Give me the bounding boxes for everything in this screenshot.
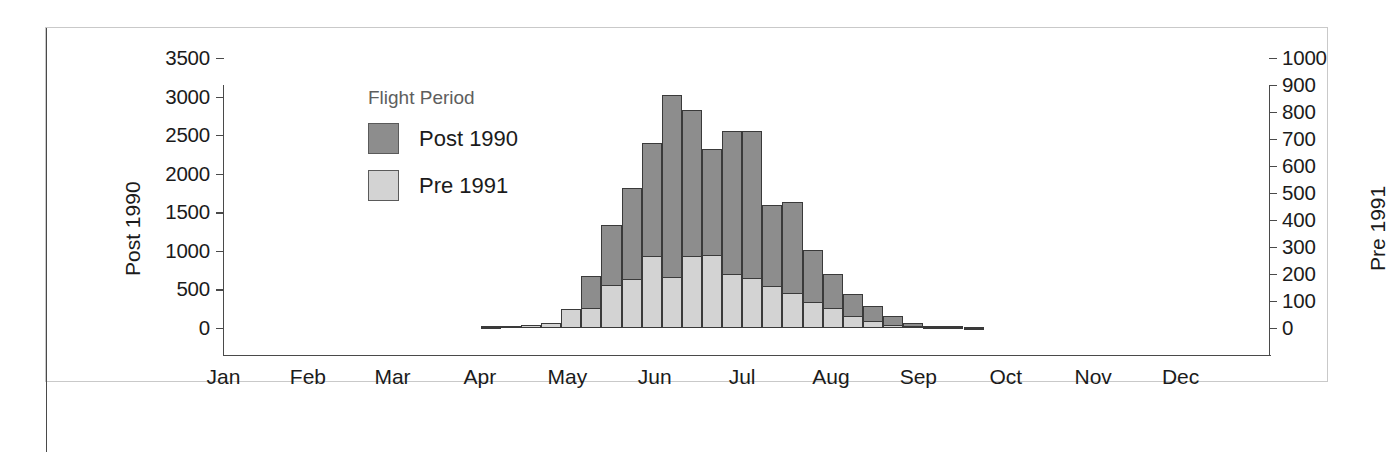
left-axis-tick-label: 3000 xyxy=(165,87,210,108)
left-axis-tick-label: 1500 xyxy=(165,202,210,223)
x-axis-tick xyxy=(46,68,47,76)
x-axis-tick xyxy=(46,316,47,324)
x-axis-tick xyxy=(46,60,47,68)
bar-pre-1991 xyxy=(943,327,963,329)
bar-pre-1991 xyxy=(782,293,802,328)
x-axis-tick xyxy=(46,236,47,244)
x-axis-tick xyxy=(46,132,47,140)
left-axis-line xyxy=(223,85,224,356)
left-axis-tick xyxy=(216,212,224,213)
x-axis-tick xyxy=(46,244,47,252)
x-axis-tick xyxy=(46,156,47,164)
x-axis-tick xyxy=(46,36,47,44)
left-axis-tick xyxy=(216,97,224,98)
right-axis-tick xyxy=(1269,328,1277,329)
x-axis-tick xyxy=(46,428,47,436)
legend-item-pre-1991: Pre 1991 xyxy=(368,170,518,201)
left-axis-title: Post 1990 xyxy=(121,181,145,276)
legend-label-pre-1991: Pre 1991 xyxy=(419,175,508,197)
left-axis-tick-label: 2500 xyxy=(165,125,210,146)
left-axis-tick xyxy=(216,58,224,59)
x-axis-tick xyxy=(46,444,47,452)
x-axis-tick xyxy=(46,188,47,196)
x-axis-tick xyxy=(46,124,47,132)
x-axis-tick xyxy=(46,356,47,364)
x-axis-tick xyxy=(46,276,47,284)
bar-pre-1991 xyxy=(501,326,521,328)
x-axis-tick xyxy=(46,116,47,124)
x-axis-month-label: Oct xyxy=(956,366,1056,387)
left-axis-tick-label: 2000 xyxy=(165,164,210,185)
x-axis-tick xyxy=(46,228,47,236)
left-axis-tick xyxy=(216,328,224,329)
x-axis-tick xyxy=(46,220,47,228)
bar-pre-1991 xyxy=(642,256,662,328)
x-axis-tick xyxy=(46,252,47,260)
legend-item-post-1990: Post 1990 xyxy=(368,123,518,154)
right-axis-tick-label: 800 xyxy=(1282,102,1316,123)
x-axis-tick xyxy=(46,204,47,212)
bar-pre-1991 xyxy=(964,328,984,330)
legend-title: Flight Period xyxy=(368,88,518,107)
right-axis-tick xyxy=(1269,58,1277,59)
x-axis-tick xyxy=(46,404,47,412)
x-axis-tick xyxy=(46,260,47,268)
right-axis-tick xyxy=(1269,193,1277,194)
bar-pre-1991 xyxy=(662,277,682,328)
x-axis-tick xyxy=(46,332,47,340)
x-axis-tick xyxy=(46,420,47,428)
right-axis-tick-label: 900 xyxy=(1282,75,1316,96)
x-axis-tick xyxy=(46,308,47,316)
x-axis-tick xyxy=(46,100,47,108)
right-axis-tick-label: 1000 xyxy=(1282,48,1327,69)
bar-pre-1991 xyxy=(541,323,561,328)
x-axis-tick xyxy=(46,76,47,84)
x-axis-tick xyxy=(46,412,47,420)
right-axis-tick xyxy=(1269,274,1277,275)
x-axis-tick xyxy=(46,324,47,332)
x-axis-month-label: Sep xyxy=(868,366,968,387)
x-axis-month-label: Aug xyxy=(781,366,881,387)
x-axis-month-label: May xyxy=(517,366,617,387)
right-axis-tick xyxy=(1269,139,1277,140)
x-axis-tick xyxy=(46,300,47,308)
bar-pre-1991 xyxy=(682,256,702,328)
right-axis-tick-label: 500 xyxy=(1282,183,1316,204)
x-axis-tick xyxy=(46,388,47,396)
left-axis-tick-label: 500 xyxy=(176,279,210,300)
left-axis-tick xyxy=(216,289,224,290)
left-axis-tick-label: 1000 xyxy=(165,241,210,262)
right-axis-tick xyxy=(1269,85,1277,86)
right-axis-tick-label: 600 xyxy=(1282,156,1316,177)
bar-pre-1991 xyxy=(843,316,863,328)
bar-pre-1991 xyxy=(481,327,501,329)
bar-pre-1991 xyxy=(722,274,742,328)
right-axis-tick xyxy=(1269,220,1277,221)
bar-pre-1991 xyxy=(903,326,923,328)
x-axis-month-label: Jun xyxy=(605,366,705,387)
x-axis-tick xyxy=(46,396,47,404)
legend-swatch-post-1990 xyxy=(368,123,399,154)
right-axis-tick-label: 400 xyxy=(1282,210,1316,231)
left-axis-tick xyxy=(216,174,224,175)
bar-pre-1991 xyxy=(803,302,823,328)
x-axis-tick xyxy=(46,372,47,380)
x-axis-tick xyxy=(46,172,47,180)
bar-pre-1991 xyxy=(561,309,581,328)
right-axis-tick xyxy=(1269,166,1277,167)
legend-swatch-pre-1991 xyxy=(368,170,399,201)
x-axis-tick xyxy=(46,348,47,356)
x-axis-line xyxy=(223,355,1271,356)
x-axis-tick xyxy=(46,84,47,92)
x-axis-tick xyxy=(46,28,47,36)
x-axis-month-label: Jul xyxy=(692,366,792,387)
x-axis-tick xyxy=(46,380,47,388)
bar-pre-1991 xyxy=(702,255,722,328)
left-axis-tick xyxy=(216,135,224,136)
left-axis-tick-label: 3500 xyxy=(165,48,210,69)
legend-label-post-1990: Post 1990 xyxy=(419,128,518,150)
bar-pre-1991 xyxy=(601,285,621,328)
right-axis-tick-label: 700 xyxy=(1282,129,1316,150)
x-axis-tick xyxy=(46,44,47,52)
x-axis-tick xyxy=(46,196,47,204)
